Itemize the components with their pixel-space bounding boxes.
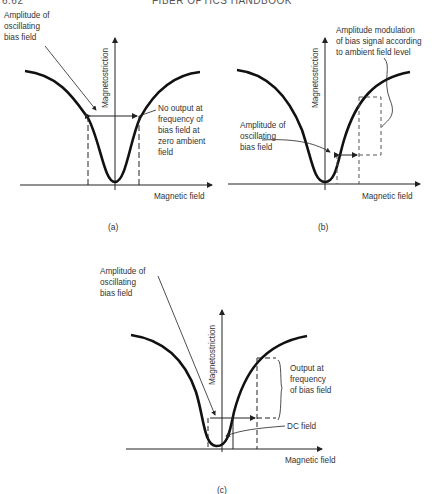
annot-no-output: No output at — [158, 104, 203, 113]
svg-text:frequency of: frequency of — [158, 115, 204, 124]
panel-b: Amplitude modulation of bias signal acco… — [228, 26, 422, 232]
panel-a: Amplitude of oscillating bias field No o… — [4, 11, 212, 232]
annot-am: Amplitude modulation — [336, 26, 415, 35]
annot-output: Output at — [290, 364, 324, 373]
y-axis-label: Magnetostriction — [311, 47, 320, 108]
svg-text:oscillating: oscillating — [240, 132, 276, 141]
svg-text:field: field — [158, 148, 173, 157]
annot-dc-field: DC field — [287, 422, 317, 431]
svg-text:frequency: frequency — [290, 375, 327, 384]
x-axis-label: Magnetic field — [154, 192, 205, 201]
svg-text:bias field: bias field — [240, 143, 273, 152]
caption-c: (c) — [217, 485, 227, 494]
svg-text:zero ambient: zero ambient — [158, 137, 206, 146]
svg-text:of bias field: of bias field — [290, 386, 332, 395]
svg-text:oscillating: oscillating — [100, 278, 136, 287]
panel-c: Amplitude of oscillating bias field Outp… — [100, 267, 336, 494]
svg-text:bias field: bias field — [100, 289, 133, 298]
svg-text:of bias signal according: of bias signal according — [336, 37, 422, 46]
y-axis-label: Magnetostriction — [101, 47, 110, 108]
annot-amplitude: Amplitude of — [240, 121, 286, 130]
svg-text:to ambient field level: to ambient field level — [336, 48, 411, 57]
magnetostriction-curve — [131, 335, 307, 446]
svg-text:oscillating: oscillating — [4, 22, 40, 31]
annot-amplitude: Amplitude of — [100, 267, 146, 276]
caption-a: (a) — [108, 222, 119, 232]
svg-text:bias field at: bias field at — [158, 126, 200, 135]
x-axis-label: Magnetic field — [285, 456, 336, 465]
annot-amplitude: Amplitude of — [4, 11, 50, 20]
caption-b: (b) — [318, 222, 329, 232]
svg-text:bias field: bias field — [4, 33, 37, 42]
x-axis-label: Magnetic field — [362, 192, 413, 201]
y-axis-label: Magnetostriction — [208, 324, 217, 385]
figure: Amplitude of oscillating bias field No o… — [0, 0, 438, 494]
